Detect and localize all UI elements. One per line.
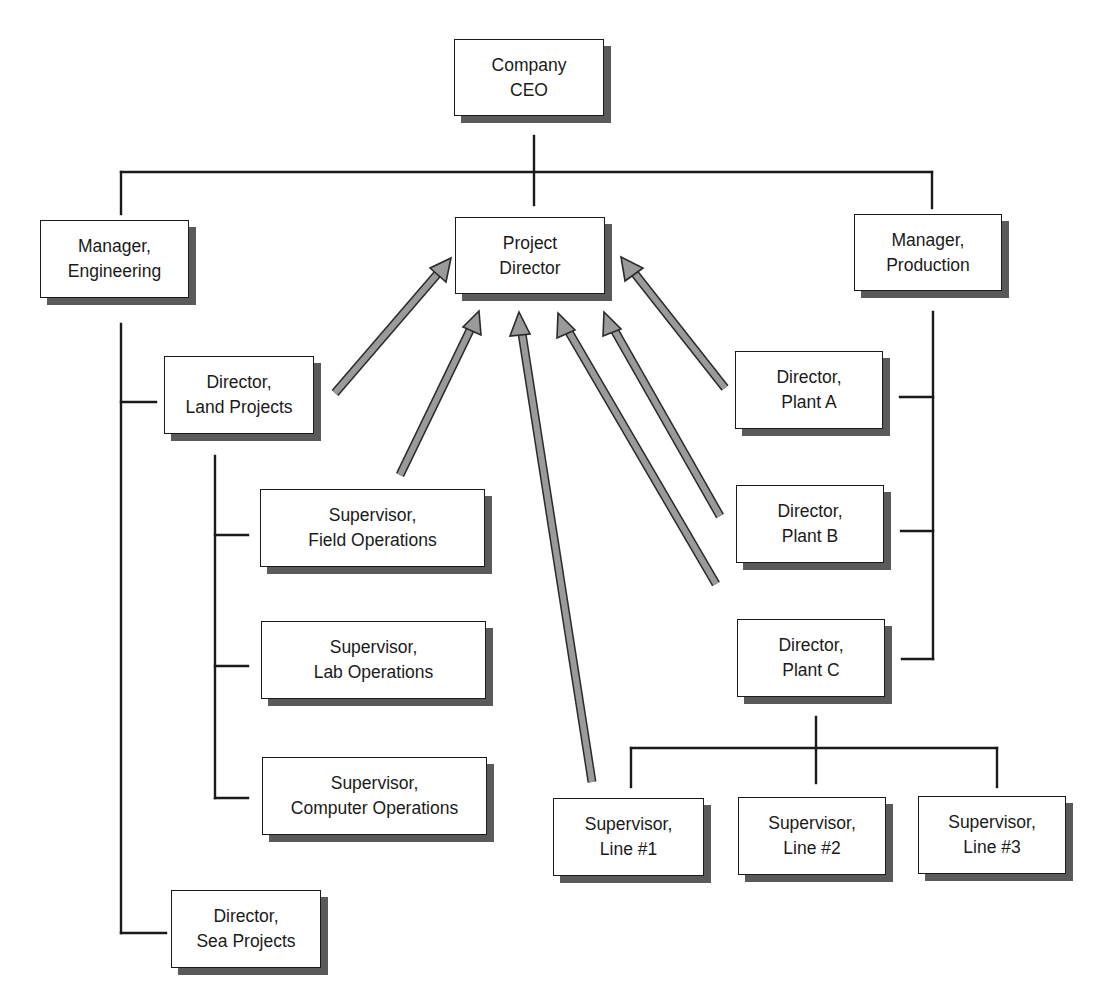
node-manager-engineering: Manager, Engineering [40,220,189,298]
node-subtitle: Field Operations [308,528,436,553]
node-subtitle: Lab Operations [314,660,434,685]
node-supervisor-computer-operations: Supervisor, Computer Operations [262,757,487,835]
node-subtitle: Line #2 [783,836,840,861]
node-subtitle: Plant A [781,390,836,415]
node-title: Company [492,53,567,78]
node-subtitle: Plant C [782,658,839,683]
node-subtitle: Land Projects [185,395,292,420]
node-title: Supervisor, [331,771,419,796]
node-subtitle: Line #3 [963,835,1020,860]
node-subtitle: Plant B [782,524,838,549]
node-title: Director, [778,633,843,658]
node-project-director: Project Director [455,217,605,294]
node-title: Supervisor, [768,811,856,836]
node-title: Director, [206,370,271,395]
node-title: Supervisor, [329,503,417,528]
node-director-plant-b: Director, Plant B [736,485,884,563]
org-chart: Company CEO Manager, Engineering Project… [0,0,1111,1002]
node-subtitle: Computer Operations [291,796,458,821]
node-subtitle: CEO [510,78,548,103]
node-supervisor-lab-operations: Supervisor, Lab Operations [261,621,486,699]
node-supervisor-field-operations: Supervisor, Field Operations [260,489,485,567]
node-subtitle: Production [886,253,970,278]
node-supervisor-line-1: Supervisor, Line #1 [553,798,704,876]
node-director-plant-c: Director, Plant C [737,619,885,697]
node-director-land-projects: Director, Land Projects [164,356,314,434]
node-supervisor-line-3: Supervisor, Line #3 [918,796,1066,874]
node-title: Project [503,231,557,256]
node-manager-production: Manager, Production [854,214,1002,291]
node-title: Director, [776,365,841,390]
node-title: Director, [213,904,278,929]
node-title: Supervisor, [330,635,418,660]
node-director-plant-a: Director, Plant A [735,351,883,429]
node-title: Supervisor, [585,812,673,837]
node-title: Manager, [78,234,151,259]
node-subtitle: Director [499,256,560,281]
node-subtitle: Line #1 [600,837,657,862]
node-title: Manager, [892,228,965,253]
node-subtitle: Engineering [68,259,161,284]
node-subtitle: Sea Projects [196,929,295,954]
node-title: Supervisor, [948,810,1036,835]
node-company-ceo: Company CEO [454,39,604,116]
node-director-sea-projects: Director, Sea Projects [171,890,321,968]
arrowhead-icon [510,312,530,336]
node-title: Director, [777,499,842,524]
node-supervisor-line-2: Supervisor, Line #2 [738,797,886,875]
